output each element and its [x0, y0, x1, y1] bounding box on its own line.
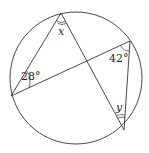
geometry-diagram: x y 28° 42° — [0, 0, 149, 153]
angle-arc-y — [117, 115, 126, 116]
angle-arc-y-2 — [118, 117, 126, 118]
angle-arc-42 — [121, 46, 130, 52]
label-angle-42: 42° — [109, 52, 129, 65]
angle-arc-x — [57, 21, 66, 22]
chord-a-d — [61, 13, 124, 130]
label-y: y — [115, 101, 123, 114]
label-x: x — [58, 25, 65, 38]
label-angle-28: 28° — [21, 70, 41, 83]
chord-c-b — [11, 41, 130, 96]
